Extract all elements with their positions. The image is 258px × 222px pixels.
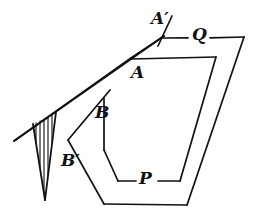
label-B: B	[95, 104, 109, 121]
geometry-figure: A′ Q A B B′ P	[0, 0, 258, 222]
label-A-prime: A′	[151, 10, 169, 27]
label-A: A	[131, 64, 144, 81]
outer-right-edge	[187, 37, 244, 205]
label-Q: Q	[192, 26, 207, 43]
spike-left-edge	[33, 124, 45, 200]
inner-right-edge	[180, 57, 216, 181]
label-B-prime: B′	[61, 152, 80, 169]
outer-top-edge-right-segment	[210, 37, 244, 38]
figure-canvas	[0, 0, 258, 222]
inner-quadrilateral	[104, 57, 216, 181]
label-P: P	[139, 170, 152, 187]
band-lower-edge	[14, 58, 131, 141]
outer-bottom-edge	[104, 204, 187, 205]
spike-right-edge	[45, 112, 56, 200]
inner-lower-left-edge	[104, 150, 118, 181]
band-right-edge-A-Aprime	[131, 36, 164, 58]
inner-top-edge	[131, 57, 216, 59]
